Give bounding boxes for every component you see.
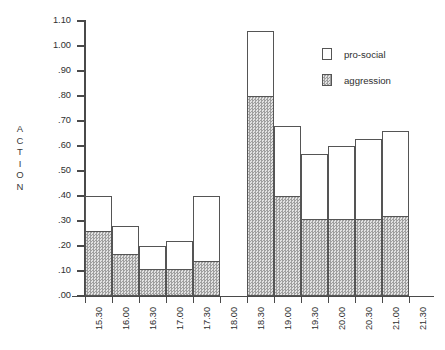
- y-axis-tick: [77, 270, 85, 271]
- legend-item-aggression: aggression: [322, 70, 391, 90]
- bar-segment-aggression: [328, 219, 355, 297]
- legend-label: pro-social: [344, 49, 386, 60]
- x-axis-tick: [382, 296, 383, 303]
- bar-segment-aggression: [274, 196, 301, 296]
- x-axis-tick-label: 17.30: [202, 307, 212, 330]
- bar-segment-aggression: [355, 219, 382, 297]
- y-axis-title-letter: I: [19, 158, 22, 170]
- legend-item-pro-social: pro-social: [322, 44, 391, 64]
- bar-segment-aggression: [193, 261, 220, 296]
- x-axis-tick: [328, 296, 329, 303]
- x-axis-tick-label: 16.00: [121, 307, 131, 330]
- bar-16-00: [112, 226, 139, 296]
- y-axis-tick-label: .40: [41, 190, 71, 200]
- y-axis-tick-label: .60: [41, 140, 71, 150]
- y-axis-tick-label: .00: [41, 290, 71, 300]
- y-axis-title-letter: C: [17, 135, 24, 147]
- chart-legend: pro-social aggression: [322, 44, 391, 96]
- bar-segment-aggression: [301, 219, 328, 297]
- x-axis-tick-label: 21.30: [418, 307, 428, 330]
- bar-16-30: [139, 246, 166, 296]
- bar-20-00: [328, 146, 355, 296]
- y-axis-tick-label: .70: [41, 115, 71, 125]
- bar-21-00: [382, 131, 409, 296]
- x-axis-tick-label: 18.30: [256, 307, 266, 330]
- bar-segment-aggression: [85, 231, 112, 296]
- bar-segment-aggression: [112, 254, 139, 297]
- x-axis-tick: [301, 296, 302, 303]
- y-axis-tick-label: .20: [41, 240, 71, 250]
- bar-segment-aggression: [139, 269, 166, 297]
- y-axis-tick: [77, 45, 85, 46]
- bar-17-30: [193, 196, 220, 296]
- bar-segment-aggression: [382, 216, 409, 296]
- y-axis-labels: .00.10.20.30.40.50.60.70.80.901.001.10: [33, 0, 71, 350]
- x-axis-tick-label: 20.30: [364, 307, 374, 330]
- y-axis-tick-label: .50: [41, 165, 71, 175]
- y-axis-tick: [77, 20, 85, 21]
- x-axis-tick-label: 16.30: [148, 307, 158, 330]
- x-axis-tick-label: 19.00: [283, 307, 293, 330]
- y-axis-title-letter: N: [17, 181, 24, 193]
- y-axis-title: A C T I O N: [12, 123, 28, 193]
- bar-18-30: [247, 31, 274, 296]
- legend-label: aggression: [344, 75, 391, 86]
- bar-20-30: [355, 139, 382, 297]
- x-axis-tick-label: 20.00: [337, 307, 347, 330]
- x-axis-tick: [85, 296, 86, 303]
- x-axis-tick: [409, 296, 410, 303]
- bar-19-30: [301, 154, 328, 297]
- y-axis-tick: [77, 245, 85, 246]
- x-axis-tick: [166, 296, 167, 303]
- x-axis-tick: [274, 296, 275, 303]
- bar-segment-aggression: [247, 96, 274, 296]
- bar-segment-aggression: [166, 269, 193, 297]
- y-axis-title-letter: T: [17, 146, 23, 158]
- bar-chart: A C T I O N .00.10.20.30.40.50.60.70.80.…: [0, 0, 445, 350]
- y-axis-tick: [77, 95, 85, 96]
- y-axis-tick: [77, 120, 85, 121]
- y-axis-tick: [77, 145, 85, 146]
- x-axis-tick-label: 15.30: [94, 307, 104, 330]
- x-axis-tick-label: 17.00: [175, 307, 185, 330]
- y-axis-tick: [77, 170, 85, 171]
- bar-15-30: [85, 196, 112, 296]
- x-axis-tick: [139, 296, 140, 303]
- x-axis-tick-label: 19.30: [310, 307, 320, 330]
- bar-17-00: [166, 241, 193, 296]
- y-axis-tick-label: 1.10: [41, 15, 71, 25]
- y-axis-tick: [77, 70, 85, 71]
- y-axis-tick-label: .80: [41, 90, 71, 100]
- y-axis-tick-label: .90: [41, 65, 71, 75]
- empty-box-icon: [322, 48, 332, 60]
- x-axis-tick: [355, 296, 356, 303]
- x-axis-tick-label: 18.00: [229, 307, 239, 330]
- y-axis-tick: [77, 195, 85, 196]
- bar-19-00: [274, 126, 301, 296]
- x-axis-tick: [220, 296, 221, 303]
- y-axis-tick-label: .30: [41, 215, 71, 225]
- y-axis-tick-label: 1.00: [41, 40, 71, 50]
- x-axis-tick-label: 21.00: [391, 307, 401, 330]
- y-axis-tick-label: .10: [41, 265, 71, 275]
- x-axis-tick: [112, 296, 113, 303]
- hatched-box-icon: [322, 74, 332, 86]
- y-axis-title-letter: A: [17, 123, 23, 135]
- x-axis-tick: [247, 296, 248, 303]
- x-axis-tick: [193, 296, 194, 303]
- y-axis-title-letter: O: [16, 169, 23, 181]
- y-axis-tick: [77, 220, 85, 221]
